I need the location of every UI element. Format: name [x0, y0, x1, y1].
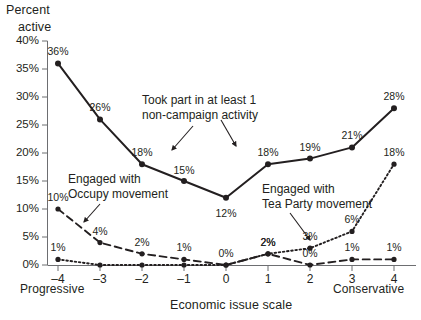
x-axis-tick-label: –2	[130, 272, 154, 286]
x-axis-tick-label: –3	[88, 272, 112, 286]
data-point-label: 0%	[293, 247, 327, 259]
x-axis-tick-label: 2	[298, 272, 322, 286]
data-point	[349, 144, 355, 150]
data-point	[265, 251, 270, 256]
data-point	[349, 229, 354, 234]
data-point	[97, 262, 102, 267]
chart-container: Percent active Economic issue scale Prog…	[0, 0, 421, 320]
x-axis-tick-label: 4	[382, 272, 406, 286]
leader-line-noncampaign-2	[221, 120, 236, 146]
leader-line-noncampaign	[172, 126, 193, 150]
data-point	[223, 262, 228, 267]
y-axis-ticks	[42, 41, 48, 265]
data-point	[307, 262, 312, 267]
data-point-label: 28%	[377, 90, 411, 102]
data-point	[391, 162, 396, 167]
data-point-label: 1%	[167, 241, 201, 253]
data-point-label: 6%	[335, 213, 369, 225]
y-axis-tick-label: 5%	[3, 230, 39, 242]
data-point-label: 19%	[293, 141, 327, 153]
x-axis-tick-label: 3	[340, 272, 364, 286]
data-point	[97, 240, 102, 245]
y-axis-tick-label: 20%	[3, 146, 39, 158]
data-point	[349, 257, 354, 262]
data-point-label: 18%	[125, 146, 159, 158]
data-point-label: 21%	[335, 129, 369, 141]
y-axis-tick-label: 30%	[3, 90, 39, 102]
y-axis-tick-label: 15%	[3, 174, 39, 186]
data-point-label: 1%	[377, 241, 411, 253]
x-axis-tick-label: –1	[172, 272, 196, 286]
data-point	[139, 251, 144, 256]
data-point-label: 1%	[41, 241, 75, 253]
data-point-label: 2%	[251, 236, 285, 248]
x-axis-tick-label: 1	[256, 272, 280, 286]
data-point-label: 4%	[83, 225, 117, 237]
data-point	[55, 257, 60, 262]
y-axis-tick-label: 10%	[3, 202, 39, 214]
y-axis-tick-label: 40%	[3, 34, 39, 46]
data-point-label: 15%	[167, 164, 201, 176]
data-point-label: 0%	[209, 247, 243, 259]
data-point-label: 2%	[125, 236, 159, 248]
data-point-label: 12%	[209, 207, 243, 219]
data-point	[139, 161, 145, 167]
data-point	[55, 60, 61, 66]
data-point-label: 1%	[335, 241, 369, 253]
data-point-label: 3%	[293, 230, 327, 242]
data-point	[181, 257, 186, 262]
data-point-label: 18%	[251, 146, 285, 158]
x-axis-tick-label: –4	[46, 272, 70, 286]
data-point	[307, 156, 313, 162]
data-point	[55, 206, 60, 211]
data-point	[265, 161, 271, 167]
leader-line-occupy	[84, 204, 100, 222]
data-point	[391, 105, 397, 111]
y-axis-tick-label: 25%	[3, 118, 39, 130]
y-axis-tick-label: 35%	[3, 62, 39, 74]
data-point	[97, 116, 103, 122]
data-point	[139, 262, 144, 267]
data-point-label: 18%	[377, 146, 411, 158]
y-axis-tick-label: 0%	[3, 258, 39, 270]
data-point-label: 10%	[41, 191, 75, 203]
data-point	[391, 257, 396, 262]
data-point	[223, 195, 229, 201]
data-point-label: 26%	[83, 101, 117, 113]
data-point	[181, 178, 187, 184]
data-point	[181, 262, 186, 267]
data-point-label: 36%	[41, 45, 75, 57]
x-axis-tick-label: 0	[214, 272, 238, 286]
